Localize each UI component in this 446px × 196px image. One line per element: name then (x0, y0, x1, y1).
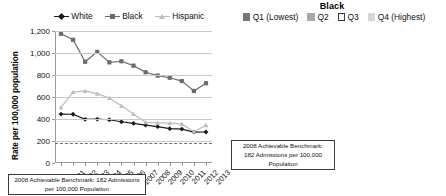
legend-item-black: Black (105, 12, 143, 20)
right-chart-legend: Q1 (Lowest)Q2Q3Q4 (Highest) (222, 13, 446, 21)
series-line-black (61, 34, 206, 91)
x-tick-mark (61, 163, 62, 166)
legend-item-q3: Q3 (338, 13, 359, 21)
legend-swatch-icon (338, 13, 346, 21)
data-point-marker (168, 76, 172, 80)
gridline (55, 31, 212, 32)
data-point-marker (192, 89, 196, 93)
legend-item-hispanic: Hispanic (155, 12, 205, 20)
legend-item-q4-highest: Q4 (Highest) (368, 13, 425, 21)
data-point-marker (119, 119, 124, 124)
y-tick-label: 1,000 (30, 49, 50, 58)
gridline (55, 141, 212, 142)
data-point-marker (83, 60, 87, 64)
data-point-marker (143, 70, 147, 74)
benchmark-reference-line (55, 143, 212, 144)
y-tick-label: 600 (37, 93, 50, 102)
x-tick-mark (109, 163, 110, 166)
legend-marker-square-icon (105, 13, 120, 20)
data-point-marker (71, 112, 76, 117)
x-tick-mark (85, 163, 86, 166)
legend-label: White (71, 12, 92, 20)
data-point-marker (131, 64, 135, 68)
left-y-axis-title: Rate per 100,000 population (11, 51, 20, 160)
legend-marker-tri-icon (155, 13, 170, 20)
data-point-marker (204, 81, 208, 85)
gridline (55, 97, 212, 98)
gridline (55, 119, 212, 120)
y-tick-label: 0 (46, 159, 50, 168)
legend-label: Hispanic (172, 12, 204, 20)
data-point-marker (59, 32, 63, 36)
right-chart-panel: Black Q1 (Lowest)Q2Q3Q4 (Highest) Rate p… (218, 0, 446, 196)
x-tick-mark (134, 163, 135, 166)
legend-swatch-icon (307, 13, 315, 21)
legend-marker-diamond-icon (54, 13, 69, 20)
data-point-marker (204, 130, 209, 135)
y-tick-mark (52, 119, 55, 120)
left-plot-area: 02004006008001,0001,200 (55, 31, 212, 163)
x-tick-mark (170, 163, 171, 166)
y-tick-label: 800 (37, 71, 50, 80)
right-benchmark-line-1: 2008 Achievable Benchmark: (243, 142, 323, 151)
gridline (55, 75, 212, 76)
x-tick-mark (97, 163, 98, 166)
x-tick-mark (206, 163, 207, 166)
y-tick-mark (52, 97, 55, 98)
legend-swatch-icon (368, 13, 376, 21)
x-tick-mark (182, 163, 183, 166)
y-tick-label: 200 (37, 137, 50, 146)
data-point-marker (167, 126, 172, 131)
x-tick-mark (194, 163, 195, 166)
legend-label: Q2 (317, 13, 328, 21)
y-tick-mark (52, 163, 55, 164)
y-tick-mark (52, 141, 55, 142)
y-tick-label: 1,200 (30, 27, 50, 36)
y-tick-mark (52, 31, 55, 32)
legend-item-white: White (54, 12, 93, 20)
x-tick-mark (121, 163, 122, 166)
data-point-marker (107, 60, 111, 64)
x-tick-mark (73, 163, 74, 166)
y-tick-label: 400 (37, 115, 50, 124)
gridline (55, 53, 212, 54)
legend-item-q1-lowest: Q1 (Lowest) (243, 13, 299, 21)
legend-label: Q1 (Lowest) (253, 13, 299, 21)
y-tick-mark (52, 53, 55, 54)
right-benchmark-line-2: 182 Admissions per 100,000 (244, 151, 322, 160)
dual-chart-figure: WhiteBlackHispanic Rate per 100,000 popu… (0, 0, 446, 196)
left-benchmark-line-1: 2008 Achievable Benchmark: 182 Admission… (14, 176, 139, 185)
legend-label: Q4 (Highest) (378, 13, 425, 21)
legend-label: Q3 (348, 13, 359, 21)
data-point-marker (119, 59, 123, 63)
x-tick-mark (146, 163, 147, 166)
right-chart-title: Black (218, 1, 446, 11)
legend-item-q2: Q2 (307, 13, 328, 21)
x-tick-mark (158, 163, 159, 166)
right-benchmark-callout: 2008 Achievable Benchmark: 182 Admission… (231, 140, 335, 170)
left-benchmark-line-2: per 100,000 Population (45, 185, 109, 194)
data-point-marker (71, 38, 75, 42)
data-point-marker (180, 79, 184, 83)
y-tick-mark (52, 75, 55, 76)
legend-label: Black (122, 12, 142, 20)
legend-swatch-icon (243, 13, 251, 21)
data-point-marker (59, 112, 64, 117)
data-point-marker (131, 121, 136, 126)
left-benchmark-callout: 2008 Achievable Benchmark: 182 Admission… (8, 174, 146, 195)
data-point-marker (204, 123, 209, 127)
left-chart-legend: WhiteBlackHispanic (40, 12, 218, 20)
data-point-marker (155, 124, 160, 129)
left-chart-panel: WhiteBlackHispanic Rate per 100,000 popu… (0, 0, 218, 196)
right-benchmark-line-3: Population (268, 160, 297, 169)
data-point-marker (179, 127, 184, 132)
